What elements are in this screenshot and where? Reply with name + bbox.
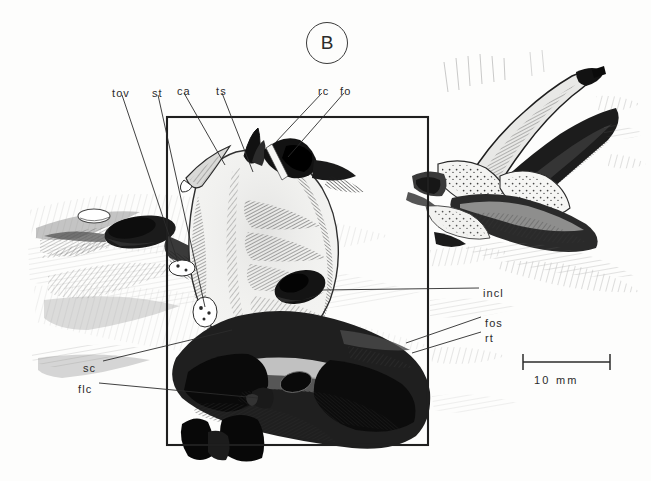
pale-nodule	[78, 209, 110, 223]
leader-line-ca	[184, 93, 225, 165]
scale-bar-label: 10 mm	[534, 374, 579, 386]
illustration-canvas	[0, 0, 651, 481]
anatomy-label-tov: tov	[112, 88, 130, 99]
inset-lower-shadow	[466, 242, 640, 292]
anatomy-label-fos: fos	[485, 318, 503, 329]
inset-left-tail	[406, 171, 447, 206]
scale-bar	[523, 354, 610, 370]
anatomy-label-st: st	[152, 88, 163, 99]
superior-crest-ts	[244, 128, 266, 166]
lower-dark-mass	[172, 311, 430, 449]
anatomy-label-ts: ts	[216, 86, 227, 97]
inset-background-hatch	[444, 50, 544, 92]
panel-letter-badge: B	[306, 22, 348, 64]
inferior-processes	[181, 415, 264, 462]
anatomy-label-flc: flc	[78, 384, 92, 395]
panel-letter-text: B	[321, 32, 334, 54]
anatomy-label-ca: ca	[177, 86, 191, 97]
leader-line-fos	[406, 317, 481, 343]
anatomy-label-rt: rt	[485, 333, 494, 344]
anatomy-label-fo: fo	[340, 86, 351, 97]
anatomy-label-rc: rc	[318, 86, 329, 97]
anatomy-label-incl: incl	[483, 288, 504, 299]
leader-line-fo	[288, 93, 344, 157]
anatomy-label-sc: sc	[83, 363, 96, 374]
anatomical-figure-panel: B tovstcatsrcfoinclfosrtscflc 10 mm	[0, 0, 651, 481]
